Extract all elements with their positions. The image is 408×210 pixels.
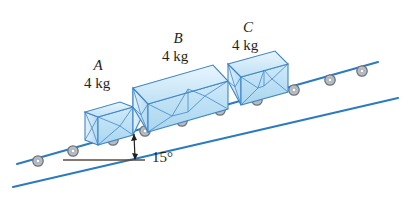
block-a (85, 102, 133, 145)
incline-angle-label: 15° (152, 149, 173, 165)
roller (68, 146, 78, 156)
block-c (228, 51, 288, 105)
roller (357, 66, 367, 76)
angle-double-arrow (131, 134, 138, 160)
block-c-letter-label: C (243, 19, 254, 35)
incline-diagram: A 4 kg B 4 kg C 4 kg 15° (0, 0, 408, 210)
block-a-mass-label: 4 kg (84, 75, 111, 91)
block-c-mass-label: 4 kg (232, 37, 259, 53)
block-a-letter-label: A (92, 57, 103, 73)
roller (289, 85, 299, 95)
roller (325, 75, 335, 85)
block-b-letter-label: B (173, 30, 182, 46)
figure-container: A 4 kg B 4 kg C 4 kg 15° (0, 0, 408, 210)
block-b-mass-label: 4 kg (162, 48, 189, 64)
roller (33, 156, 43, 166)
